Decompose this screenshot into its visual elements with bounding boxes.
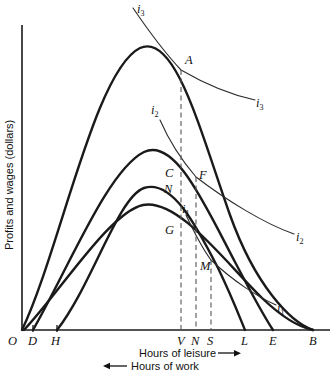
caption-hours-of-leisure: Hours of leisure xyxy=(139,347,216,359)
x-axis-ticks xyxy=(33,325,57,332)
tick-label-H: H xyxy=(50,334,61,348)
curve-label-i2-top: i2 xyxy=(151,103,158,119)
curve-label-i3-right: i3 xyxy=(256,96,263,112)
indifference-curve-labels: i3 i3 i2 i2 i1 i1 xyxy=(137,2,303,317)
tick-label-B: B xyxy=(309,334,317,348)
point-label-N: N xyxy=(163,182,173,196)
curve-label-i1-top: i1 xyxy=(182,202,189,218)
point-label-C: C xyxy=(165,166,174,180)
curve-HL xyxy=(57,187,245,330)
point-label-M: M xyxy=(199,259,211,273)
y-axis-label: Profits and wages (dollars) xyxy=(3,120,15,250)
arrow-left-icon xyxy=(103,363,127,370)
curve-label-i2-right: i2 xyxy=(296,230,303,246)
curve-label-i3-top: i3 xyxy=(137,2,144,18)
tick-label-E: E xyxy=(268,334,277,348)
point-label-G: G xyxy=(165,223,174,237)
tick-label-V: V xyxy=(177,334,186,348)
point-label-A: A xyxy=(184,53,193,67)
tick-label-O: O xyxy=(8,334,17,348)
tick-label-S: S xyxy=(207,334,214,348)
indifference-curve-i3 xyxy=(133,8,255,100)
tick-label-D: D xyxy=(27,334,37,348)
point-label-F: F xyxy=(198,168,207,182)
arrow-right-icon xyxy=(218,350,241,357)
tick-label-L: L xyxy=(240,334,248,348)
chart-canvas: O D H V N S L E B A C F N G M i3 i3 i2 i… xyxy=(0,0,335,374)
curve-DE xyxy=(33,150,273,330)
curve-label-i1-right: i1 xyxy=(277,301,284,317)
dashed-verticals xyxy=(181,70,211,330)
x-axis-tick-labels: O D H V N S L E B xyxy=(8,334,317,348)
economics-figure: O D H V N S L E B A C F N G M i3 i3 i2 i… xyxy=(0,0,335,374)
caption-hours-of-work: Hours of work xyxy=(131,360,199,372)
tick-label-N: N xyxy=(190,334,200,348)
